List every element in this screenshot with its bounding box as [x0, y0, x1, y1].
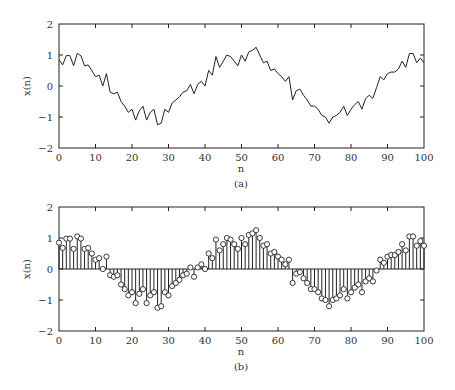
- stem-marker: [418, 239, 423, 244]
- x-tick-label: 90: [381, 335, 394, 346]
- x-tick-label: 60: [272, 335, 285, 346]
- plot-area-a: [59, 24, 424, 148]
- stem-marker: [78, 236, 83, 241]
- stem-marker: [213, 237, 218, 242]
- stem-marker: [283, 262, 288, 267]
- y-tick-label: 2: [47, 202, 53, 213]
- caption-b: (b): [234, 361, 248, 372]
- stem-marker: [206, 251, 211, 256]
- stem-marker: [374, 268, 379, 273]
- stem-marker: [396, 249, 401, 254]
- stem-marker: [56, 240, 61, 245]
- stem-marker: [60, 245, 65, 250]
- stem-marker: [356, 282, 361, 287]
- stem-marker: [129, 290, 134, 295]
- y-tick-label: −2: [38, 326, 53, 337]
- y-axis-label-b: x(n): [21, 259, 32, 279]
- x-tick-labels-a: 0102030405060708090100: [56, 152, 434, 163]
- y-tick-labels-a: −2−1012: [38, 19, 53, 154]
- stem-marker: [217, 248, 222, 253]
- stem-marker: [337, 293, 342, 298]
- stem-marker: [166, 293, 171, 298]
- stem-marker: [421, 243, 426, 248]
- x-axis-label-b: n: [238, 346, 245, 357]
- y-tick-label: 0: [47, 264, 53, 275]
- stem-marker: [191, 274, 196, 279]
- x-tick-label: 10: [89, 152, 102, 163]
- figure: 0102030405060708090100 −2−1012 n x(n) (a…: [0, 0, 455, 390]
- x-tick-label: 80: [345, 335, 358, 346]
- y-tick-label: −2: [38, 143, 53, 154]
- x-tick-label: 30: [162, 335, 175, 346]
- x-tick-label: 100: [414, 335, 433, 346]
- stem-marker: [133, 301, 138, 306]
- stem-marker: [232, 242, 237, 247]
- y-tick-labels-b: −2−1012: [38, 202, 53, 337]
- stem-marker: [290, 280, 295, 285]
- y-axis-label-a: x(n): [21, 76, 32, 96]
- stem-marker: [184, 271, 189, 276]
- stem-marker: [305, 280, 310, 285]
- stem-marker: [89, 251, 94, 256]
- x-tick-label: 20: [126, 335, 139, 346]
- stem-marker: [71, 246, 76, 251]
- stem-marker: [151, 290, 156, 295]
- caption-a: (a): [234, 178, 248, 189]
- stem-marker: [381, 260, 386, 265]
- stem-marker: [118, 282, 123, 287]
- stem-marker: [272, 249, 277, 254]
- stem-marker: [122, 287, 127, 292]
- stem-marker: [221, 242, 226, 247]
- stem-marker: [243, 242, 248, 247]
- x-tick-label: 70: [308, 152, 321, 163]
- x-tick-label: 40: [199, 335, 212, 346]
- x-tick-label: 100: [414, 152, 433, 163]
- stem-marker: [341, 287, 346, 292]
- stem-marker: [370, 279, 375, 284]
- x-tick-label: 70: [308, 335, 321, 346]
- x-tick-label: 0: [56, 152, 62, 163]
- x-tick-label: 30: [162, 152, 175, 163]
- stem-marker: [159, 304, 164, 309]
- x-tick-labels-b: 0102030405060708090100: [56, 335, 434, 346]
- y-tick-label: −1: [38, 295, 53, 306]
- stem-marker: [104, 254, 109, 259]
- x-tick-label: 50: [235, 152, 248, 163]
- x-tick-label: 80: [345, 152, 358, 163]
- x-tick-label: 40: [199, 152, 212, 163]
- stem-marker: [100, 266, 105, 271]
- stem-marker: [210, 256, 215, 261]
- stem-marker: [199, 262, 204, 267]
- stem-marker: [264, 242, 269, 247]
- stem-marker: [86, 245, 91, 250]
- y-tick-label: 1: [47, 233, 53, 244]
- stem-marker: [144, 301, 149, 306]
- stem-marker: [297, 270, 302, 275]
- stem-marker: [137, 291, 142, 296]
- stem-marker: [359, 290, 364, 295]
- y-tick-label: −1: [38, 112, 53, 123]
- x-tick-label: 0: [56, 335, 62, 346]
- x-tick-label: 90: [381, 152, 394, 163]
- stem-marker: [400, 242, 405, 247]
- stem-marker: [323, 297, 328, 302]
- stem-marker: [202, 266, 207, 271]
- stem-marker: [239, 235, 244, 240]
- stem-marker: [286, 257, 291, 262]
- stem-marker: [410, 234, 415, 239]
- x-tick-label: 10: [89, 335, 102, 346]
- y-tick-label: 1: [47, 50, 53, 61]
- stem-marker: [177, 277, 182, 282]
- stem-marker: [414, 243, 419, 248]
- stem-marker: [140, 287, 145, 292]
- stem-marker: [345, 296, 350, 301]
- stem-marker: [228, 237, 233, 242]
- x-axis-label-a: n: [238, 163, 245, 174]
- stem-marker: [327, 304, 332, 309]
- stem-marker: [67, 236, 72, 241]
- stem-marker: [316, 290, 321, 295]
- y-tick-label: 2: [47, 19, 53, 30]
- x-tick-label: 50: [235, 335, 248, 346]
- stem-marker: [279, 257, 284, 262]
- stem-marker: [97, 256, 102, 261]
